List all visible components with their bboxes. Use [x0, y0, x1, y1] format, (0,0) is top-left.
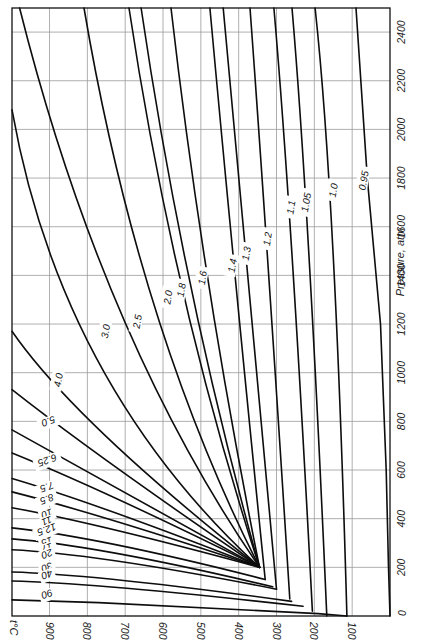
temp-tick-label: 800: [81, 622, 93, 640]
svg-text:1.2: 1.2: [261, 231, 274, 247]
temp-tick-label: 500: [195, 622, 207, 640]
svg-text:1.0: 1.0: [327, 182, 340, 198]
curve-label: 1.2: [259, 227, 275, 251]
curve-label: 1.6: [194, 266, 210, 290]
pressure-tick-label: 800: [395, 412, 407, 430]
isoline-1_1: [274, 8, 313, 611]
svg-text:1.6: 1.6: [196, 270, 209, 286]
temperature-axis-title: t°C: [8, 620, 20, 635]
pressure-tick-label: 1800: [395, 166, 407, 190]
pressure-tick-label: 1200: [395, 312, 407, 336]
curve-label: 5.0: [36, 412, 61, 431]
curve-label: 1.05: [297, 187, 314, 217]
temp-tick-label: 900: [44, 622, 56, 640]
chart-plot: 10111517203040900.951.01.051.11.21.31.41…: [0, 0, 424, 642]
curve-label: 1.8: [172, 278, 188, 302]
pressure-tick-label: 400: [395, 510, 407, 528]
svg-text:1.3: 1.3: [240, 245, 253, 261]
pressure-axis: 0200400600800100012001400160018002000220…: [395, 20, 408, 616]
svg-text:6.25: 6.25: [36, 452, 58, 469]
curve-label: 1.0: [324, 178, 340, 202]
temp-tick-label: 400: [233, 622, 245, 640]
isoline-90: [12, 600, 347, 616]
svg-text:4.0: 4.0: [52, 372, 65, 388]
pressure-tick-label: 0: [396, 610, 408, 616]
curve-label: 1.1: [282, 195, 298, 219]
temp-tick-label: 300: [271, 622, 283, 640]
temp-tick-label: 200: [308, 621, 320, 640]
curve-label: 1.3: [237, 241, 253, 265]
pressure-tick-label: 1000: [395, 361, 407, 385]
isoline-1_3: [223, 8, 276, 589]
pressure-axis-title: Pressure, atm: [394, 228, 406, 296]
temp-tick-label: 700: [119, 622, 131, 640]
svg-text:1.4: 1.4: [226, 257, 239, 273]
pressure-tick-label: 600: [395, 461, 407, 479]
isoline-1_0: [315, 8, 347, 616]
curve-label: 1.4: [223, 254, 239, 278]
temp-tick-label: 600: [157, 622, 169, 640]
curve-label: 2.5: [128, 310, 144, 334]
temp-tick-label: 100: [346, 622, 358, 640]
isoline-1_05: [292, 8, 327, 616]
pressure-tick-label: 2200: [395, 69, 407, 94]
pressure-tick-label: 2400: [395, 20, 407, 45]
svg-text:1.8: 1.8: [175, 282, 188, 298]
svg-text:2.5: 2.5: [131, 313, 144, 330]
curve-label: 4.0: [49, 368, 65, 392]
curve-label: 2.0: [159, 285, 175, 309]
pressure-tick-label: 200: [395, 558, 407, 577]
svg-text:1.05: 1.05: [299, 191, 313, 213]
svg-text:1.1: 1.1: [284, 199, 297, 215]
temperature-axis: 900800700600500400300200100: [44, 621, 359, 640]
svg-text:3.0: 3.0: [99, 323, 112, 339]
grid-lines: [12, 8, 390, 616]
svg-text:2.0: 2.0: [161, 289, 174, 306]
curve-label: 3.0: [97, 319, 113, 343]
isoline-0_95: [356, 8, 390, 616]
pressure-tick-label: 2000: [395, 118, 407, 143]
